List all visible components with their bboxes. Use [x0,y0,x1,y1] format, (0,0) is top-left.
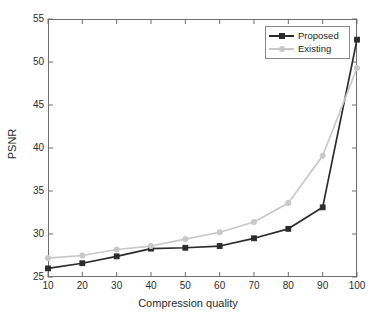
legend-label-existing: Existing [294,43,331,54]
x-tick-label: 90 [308,281,338,291]
x-tick-label: 50 [170,281,200,291]
y-axis-tick-labels: 25303540455055 [14,0,44,323]
legend-swatch-existing [269,43,294,54]
y-tick-label: 30 [18,229,44,239]
y-tick-label: 55 [18,14,44,24]
x-tick-label: 60 [205,281,235,291]
legend-label-proposed: Proposed [294,30,339,41]
legend-item-existing: Existing [269,42,346,55]
y-tick-label: 40 [18,143,44,153]
x-tick-label: 40 [136,281,166,291]
y-tick-label: 45 [18,100,44,110]
legend-swatch-proposed [269,30,294,41]
y-axis-title: PSNR [6,114,18,174]
x-tick-label: 10 [33,281,63,291]
x-tick-label: 20 [67,281,97,291]
chart-legend: Proposed Existing [265,26,350,59]
x-axis-title: Compression quality [0,297,376,309]
x-axis-tick-labels: 102030405060708090100 [0,281,376,295]
y-tick-label: 35 [18,186,44,196]
x-tick-label: 80 [273,281,303,291]
x-tick-label: 30 [102,281,132,291]
x-tick-label: 100 [342,281,372,291]
y-tick-label: 50 [18,57,44,67]
x-tick-label: 70 [239,281,269,291]
chart-figure: 25303540455055 102030405060708090100 Com… [0,0,376,323]
legend-item-proposed: Proposed [269,29,346,42]
